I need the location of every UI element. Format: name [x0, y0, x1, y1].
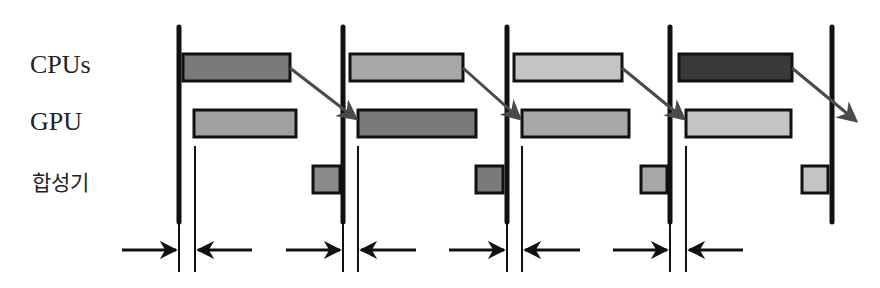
cpu-bars	[183, 54, 792, 81]
cpu-bar-1	[183, 54, 290, 81]
compositor-bar-4	[802, 166, 828, 193]
handoff-arrow-4	[792, 68, 855, 120]
cpu-bar-3	[514, 54, 622, 81]
frame-timing-diagram	[0, 0, 880, 288]
gpu-bar-2	[358, 110, 476, 137]
frame-start-lines	[195, 146, 686, 272]
compositor-bar-1	[313, 166, 340, 193]
compositor-bar-2	[476, 166, 503, 193]
gpu-bar-1	[194, 110, 296, 137]
vsync-thin-lines	[179, 222, 670, 272]
gpu-bar-3	[522, 110, 629, 137]
gpu-bar-4	[686, 110, 791, 137]
compositor-bars	[313, 166, 828, 193]
cpu-bar-2	[350, 54, 463, 81]
gpu-bars	[194, 110, 791, 137]
handoff-arrow-3	[622, 68, 683, 118]
compositor-bar-3	[641, 166, 667, 193]
cpu-bar-4	[679, 54, 792, 81]
